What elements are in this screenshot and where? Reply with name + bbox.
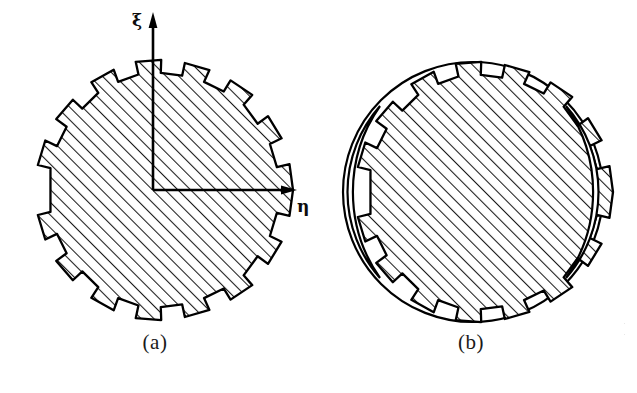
gear-diagram-a <box>0 0 320 340</box>
figure-sheet: ξ η (a) <box>0 0 637 393</box>
cropped-caption-fragment: · · <box>623 318 635 374</box>
figure-panel-b: (b) <box>305 0 637 393</box>
figure-panel-a: ξ η (a) <box>0 0 320 393</box>
caption-fragment-line-1: · <box>623 318 635 329</box>
caption-fragment-line-2: · <box>623 329 635 340</box>
figure-caption-a: (a) <box>0 330 315 355</box>
axis-arrowhead-xi <box>149 12 158 28</box>
figure-caption-b: (b) <box>305 330 637 355</box>
axis-label-xi: ξ <box>132 10 142 30</box>
gear-diagram-b <box>305 0 637 340</box>
